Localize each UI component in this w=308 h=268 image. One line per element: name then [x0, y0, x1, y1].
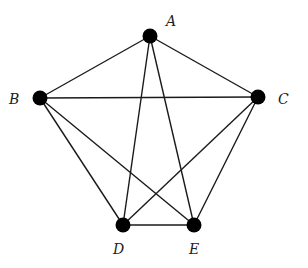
edge-c-d [123, 97, 258, 225]
node-b [33, 91, 48, 106]
edges-group [40, 36, 258, 225]
node-d [116, 218, 131, 233]
node-c [251, 90, 266, 105]
node-label-b: B [8, 91, 19, 107]
graph-diagram: ABCDE [0, 0, 308, 268]
edge-a-d [123, 36, 150, 225]
nodes-group [33, 29, 266, 233]
edge-b-c [40, 97, 258, 98]
edge-c-e [194, 97, 258, 225]
node-label-a: A [164, 13, 176, 29]
edge-a-c [150, 36, 258, 97]
node-a [143, 29, 158, 44]
node-label-d: D [112, 241, 124, 257]
node-label-e: E [188, 241, 199, 257]
node-e [187, 218, 202, 233]
node-label-c: C [278, 91, 289, 107]
edge-a-e [150, 36, 194, 225]
edge-b-d [40, 98, 123, 225]
edge-a-b [40, 36, 150, 98]
edge-b-e [40, 98, 194, 225]
